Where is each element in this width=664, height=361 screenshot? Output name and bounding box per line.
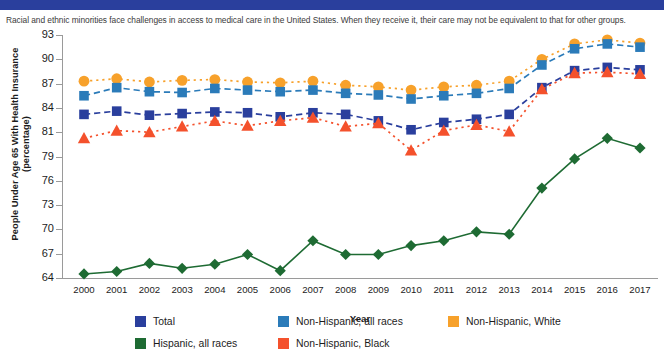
data-point-marker <box>111 73 122 84</box>
data-point-marker <box>406 125 416 135</box>
data-point-marker <box>341 110 351 120</box>
data-point-marker <box>308 76 319 87</box>
x-axis-line <box>62 278 658 279</box>
data-point-marker <box>145 110 155 120</box>
series-non-hispanic-white <box>79 34 646 95</box>
chart-legend: TotalNon-Hispanic, all racesNon-Hispanic… <box>0 310 664 358</box>
data-point-marker <box>373 249 384 260</box>
y-tick-label: 70 <box>28 222 54 234</box>
data-point-marker <box>79 91 89 101</box>
data-point-marker <box>177 75 188 86</box>
data-point-marker <box>78 132 90 143</box>
data-point-marker <box>504 229 515 240</box>
y-tick-label: 76 <box>28 174 54 186</box>
series-line <box>84 67 640 129</box>
y-tick-label: 81 <box>28 125 54 137</box>
series-line <box>84 72 640 150</box>
y-tick-label: 79 <box>28 150 54 162</box>
data-point-marker <box>504 110 514 120</box>
data-point-marker <box>275 77 286 88</box>
data-point-marker <box>471 226 482 237</box>
data-point-marker <box>144 77 155 88</box>
series-non-hispanic-all-races <box>79 39 645 104</box>
data-point-marker <box>112 83 122 93</box>
data-point-marker <box>405 240 416 251</box>
data-point-marker <box>78 268 89 279</box>
legend-swatch <box>278 316 289 327</box>
plot-region: 9390878481797673706764 20002001200220032… <box>62 35 658 278</box>
data-point-marker <box>177 88 187 98</box>
data-point-marker <box>635 42 645 52</box>
data-point-marker <box>340 249 351 260</box>
y-tick-label: 67 <box>28 247 54 259</box>
legend-swatch <box>278 338 289 349</box>
legend-swatch <box>135 316 146 327</box>
y-tick-label: 87 <box>28 77 54 89</box>
y-axis-title: People Under Age 65 With Health Insuranc… <box>10 44 32 244</box>
data-point-marker <box>602 39 612 49</box>
y-tick-label: 90 <box>28 52 54 64</box>
y-tick-label: 93 <box>28 28 54 40</box>
legend-label: Non-Hispanic, Black <box>296 338 390 349</box>
data-point-marker <box>438 81 449 92</box>
data-point-marker <box>145 87 155 97</box>
data-point-marker <box>112 106 122 116</box>
data-point-marker <box>341 89 351 99</box>
chart-subtitle: Racial and ethnic minorities face challe… <box>6 15 658 25</box>
chart-area: People Under Age 65 With Health Insuranc… <box>0 30 664 295</box>
data-point-marker <box>144 258 155 269</box>
data-point-marker <box>439 91 449 101</box>
series-hispanic-all-races <box>78 133 645 280</box>
legend-swatch <box>448 316 459 327</box>
data-point-marker <box>210 84 220 94</box>
data-point-marker <box>177 109 187 119</box>
data-point-marker <box>308 85 318 95</box>
top-banner <box>0 0 664 10</box>
series-line <box>84 44 640 99</box>
legend-item-non-hispanic-all-races[interactable]: Non-Hispanic, all races <box>278 316 403 327</box>
legend-swatch <box>135 338 146 349</box>
data-point-marker <box>209 259 220 270</box>
series-line <box>84 138 640 274</box>
data-point-marker <box>504 84 514 94</box>
data-point-marker <box>406 94 416 104</box>
y-tick-label: 84 <box>28 101 54 113</box>
y-tick-mark <box>56 278 62 279</box>
legend-item-hispanic-all-races[interactable]: Hispanic, all races <box>135 338 237 349</box>
data-point-marker <box>243 108 253 118</box>
legend-label: Non-Hispanic, all races <box>296 316 403 327</box>
data-point-marker <box>243 85 253 95</box>
data-point-marker <box>634 142 645 153</box>
data-point-marker <box>242 249 253 260</box>
data-point-marker <box>209 74 220 85</box>
series-non-hispanic-black <box>78 66 646 155</box>
chart-page: Racial and ethnic minorities face challe… <box>0 0 664 361</box>
series-layer <box>62 35 658 278</box>
series-total <box>79 63 645 135</box>
legend-label: Non-Hispanic, White <box>466 316 561 327</box>
y-tick-label: 73 <box>28 198 54 210</box>
legend-item-non-hispanic-white[interactable]: Non-Hispanic, White <box>448 316 561 327</box>
data-point-marker <box>570 44 580 54</box>
data-point-marker <box>241 120 253 131</box>
data-point-marker <box>111 266 122 277</box>
legend-item-non-hispanic-black[interactable]: Non-Hispanic, Black <box>278 338 390 349</box>
legend-label: Hispanic, all races <box>153 338 237 349</box>
data-point-marker <box>406 85 417 96</box>
legend-label: Total <box>153 316 175 327</box>
data-point-marker <box>275 87 285 97</box>
data-point-marker <box>405 144 417 155</box>
legend-item-total[interactable]: Total <box>135 316 175 327</box>
data-point-marker <box>472 89 482 99</box>
y-tick-label: 64 <box>28 271 54 283</box>
x-tick-label: 2017 <box>620 284 660 295</box>
data-point-marker <box>79 76 90 87</box>
data-point-marker <box>537 60 547 70</box>
data-point-marker <box>602 133 613 144</box>
data-point-marker <box>438 235 449 246</box>
data-point-marker <box>79 110 89 120</box>
data-point-marker <box>177 263 188 274</box>
data-point-marker <box>374 90 384 100</box>
